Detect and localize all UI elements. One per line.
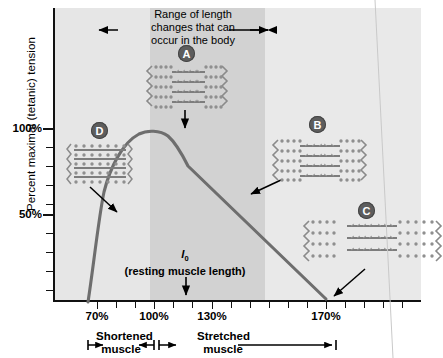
segment-label-shortened: Shortened muscle bbox=[96, 330, 146, 355]
x-tick-minor-9 bbox=[307, 302, 308, 308]
x-tick-label-170: 170% bbox=[301, 310, 351, 322]
panel-badge-B: B bbox=[309, 116, 326, 133]
panel-badge-D: D bbox=[91, 122, 108, 139]
x-tick-minor-6 bbox=[250, 302, 251, 308]
x-tick-minor-13 bbox=[402, 302, 403, 308]
x-tick-70 bbox=[97, 302, 98, 309]
x-tick-100 bbox=[154, 302, 155, 309]
x-tick-label-70: 70% bbox=[72, 310, 122, 322]
x-tick-minor-8 bbox=[288, 302, 289, 308]
segment-label-stretched: Stretched muscle bbox=[197, 330, 249, 355]
y-axis-label: Percent maximal (tetanic) tension bbox=[25, 9, 37, 239]
l0-subscript: 0 bbox=[185, 254, 189, 263]
x-tick-minor-7 bbox=[269, 302, 270, 308]
y-tick-minor-6 bbox=[46, 252, 53, 253]
x-tick-130 bbox=[212, 302, 213, 309]
panel-badge-C: C bbox=[358, 202, 375, 219]
panel-badge-A: A bbox=[178, 45, 195, 62]
shortened-line-2: muscle bbox=[96, 343, 146, 356]
y-tick-minor-3 bbox=[46, 185, 53, 186]
y-tick-minor-5 bbox=[46, 233, 53, 234]
y-tick-minor-7 bbox=[46, 271, 53, 272]
figure-root: 100% 50% Percent maximal (tetanic) tensi… bbox=[0, 0, 443, 358]
band-stretched bbox=[265, 8, 421, 300]
x-tick-minor-1 bbox=[116, 302, 117, 308]
x-tick-minor-3 bbox=[173, 302, 174, 308]
y-tick-50 bbox=[43, 214, 53, 216]
l0-caption: (resting muscle length) bbox=[104, 265, 266, 278]
stretched-line-2: muscle bbox=[197, 343, 249, 356]
y-tick-minor-4 bbox=[46, 204, 53, 205]
shortened-line-1: Shortened bbox=[96, 330, 146, 343]
x-tick-minor-10 bbox=[345, 302, 346, 308]
y-tick-100 bbox=[43, 128, 53, 130]
x-tick-minor-12 bbox=[383, 302, 384, 308]
x-tick-minor-4 bbox=[192, 302, 193, 308]
x-tick-minor-5 bbox=[231, 302, 232, 308]
x-tick-minor-2 bbox=[135, 302, 136, 308]
range-annotation: Range of length changes that can occur i… bbox=[118, 8, 268, 48]
range-line-3: occur in the body bbox=[118, 34, 268, 47]
resting-length-annotation: l0 (resting muscle length) bbox=[104, 248, 266, 278]
y-axis-line bbox=[53, 8, 55, 302]
y-tick-minor-8 bbox=[46, 290, 53, 291]
y-tick-minor-1 bbox=[46, 147, 53, 148]
x-tick-170 bbox=[326, 302, 327, 309]
range-line-1: Range of length bbox=[118, 8, 268, 21]
x-tick-label-130: 130% bbox=[187, 310, 237, 322]
x-tick-label-100: 100% bbox=[129, 310, 179, 322]
range-line-2: changes that can bbox=[118, 21, 268, 34]
stretched-line-1: Stretched bbox=[197, 330, 249, 343]
x-axis-line bbox=[53, 300, 421, 302]
l0-symbol-line: l0 bbox=[104, 248, 266, 265]
y-tick-minor-2 bbox=[46, 166, 53, 167]
x-tick-minor-11 bbox=[364, 302, 365, 308]
